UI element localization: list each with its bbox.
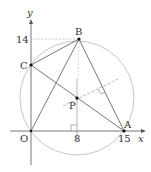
x-axis-label: x (138, 133, 144, 144)
label-p: P (69, 100, 76, 111)
y-axis-label: y (26, 7, 33, 18)
segment-ob (31, 39, 79, 131)
segment-ba (79, 39, 124, 131)
tick-x-8: 8 (74, 133, 80, 144)
label-c: C (20, 60, 28, 71)
label-a: A (123, 119, 132, 130)
point-o (30, 130, 32, 132)
point-c (29, 63, 32, 66)
guide-from-b (78, 39, 79, 80)
geometry-diagram: y x 14 8 15 B C P A O (0, 0, 151, 172)
tick-y-14: 14 (16, 34, 29, 45)
point-p (75, 96, 78, 99)
label-o: O (20, 133, 28, 144)
tick-x-15: 15 (118, 133, 131, 144)
point-b (77, 37, 80, 40)
y-axis-arrow-icon (29, 19, 33, 24)
right-angle-mark (71, 125, 77, 131)
label-b: B (75, 26, 82, 37)
